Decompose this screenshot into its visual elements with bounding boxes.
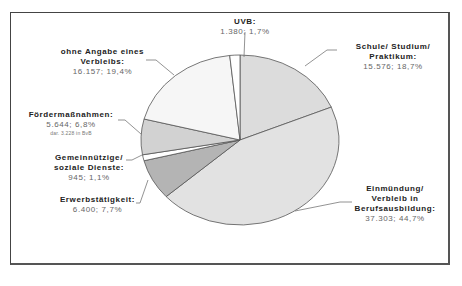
label-foerder: Fördermaßnahmen: 5.644; 6,8% dar. 3.228 … xyxy=(22,110,120,137)
label-einmuendung: Einmündung/ Verbleib in Berufsausbildung… xyxy=(345,184,445,224)
leader-foerder xyxy=(118,120,141,134)
label-gemein: Gemeinnützige/ soziale Dienste: 945; 1,1… xyxy=(48,153,130,183)
label-erwerb: Erwerbstätigkeit: 6.400; 7,7% xyxy=(55,195,140,215)
label-ohne: ohne Angabe eines Verbleibs: 16.157; 19,… xyxy=(55,47,150,77)
label-schule: Schule/ Studium/ Praktikum: 15.576; 18,7… xyxy=(338,42,448,72)
label-uvb: UVB: 1.380; 1,7% xyxy=(220,17,270,37)
leader-schule xyxy=(305,50,337,66)
leader-ohne xyxy=(146,60,174,75)
